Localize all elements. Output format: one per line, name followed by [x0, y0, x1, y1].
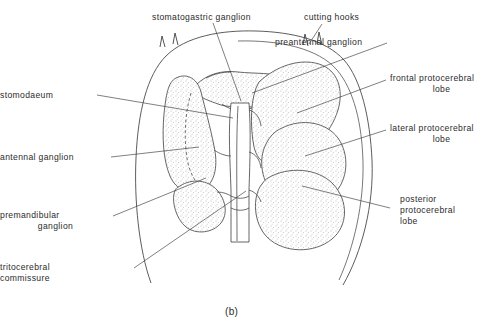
label-tritocerebral-line-1: tritocerebral — [0, 262, 131, 273]
figure-root: stomatogastric ganglion cutting hooks st… — [0, 0, 493, 331]
label-frontal-line-1: frontal protocerebral — [390, 73, 493, 84]
label-stomodaeum: stomodaeum — [0, 90, 95, 101]
label-frontal-protocerebral-lobe: frontal protocerebral lobe — [390, 73, 493, 95]
label-cutting-hooks: cutting hooks — [304, 12, 359, 23]
posterior-protocerebral-lobe-shape — [255, 170, 344, 249]
stomodaeum-shape — [229, 103, 250, 242]
label-premandibular-line-2: ganglion — [0, 221, 111, 232]
label-tritocerebral-line-2: commissure — [0, 273, 131, 284]
premandibular-ganglion-shape — [174, 181, 226, 232]
label-posterior-protocerebral-lobe: posterior protocerebral lobe — [400, 194, 493, 227]
label-tritocerebral-commissure: tritocerebral commissure — [0, 262, 131, 284]
label-preantennal-ganglion: preantennal ganglion — [275, 37, 390, 48]
label-posterior-line-1: posterior — [400, 194, 493, 205]
label-premandibular-line-1: premandibular — [0, 210, 111, 221]
label-posterior-line-2: protocerebral — [400, 205, 493, 216]
label-frontal-line-2: lobe — [390, 84, 493, 95]
label-premandibular-ganglion: premandibular ganglion — [0, 210, 111, 232]
label-posterior-line-3: lobe — [400, 216, 493, 227]
figure-caption: (b) — [225, 306, 238, 317]
label-stomatogastric-ganglion: stomatogastric ganglion — [152, 12, 251, 23]
label-antennal-ganglion: antennal ganglion — [0, 152, 109, 163]
label-lateral-protocerebral-lobe: lateral protocerebral lobe — [390, 123, 493, 145]
label-lateral-line-2: lobe — [390, 134, 493, 145]
label-lateral-line-1: lateral protocerebral — [390, 123, 493, 134]
